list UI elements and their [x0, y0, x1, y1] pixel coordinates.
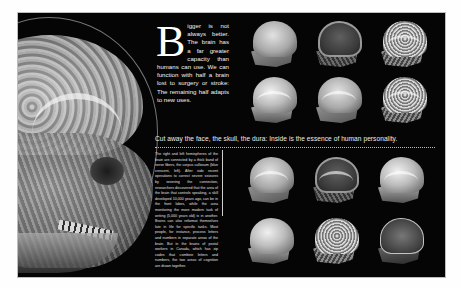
head-render [242, 216, 302, 271]
head-render [310, 75, 370, 125]
head-render [375, 75, 435, 125]
caption: Cut away the face, the skull, the dura: … [155, 135, 440, 143]
head-render [307, 155, 367, 210]
head-render [307, 216, 367, 271]
head-render [310, 19, 370, 69]
head-render [372, 216, 432, 271]
intro-paragraph: B igger is not always better. The brain … [157, 22, 229, 104]
top-render-grid [245, 19, 435, 125]
hero-head-render [18, 13, 160, 277]
head-render [245, 75, 305, 125]
body-text: The right and left hemispheres of the br… [155, 152, 218, 269]
bottom-render-grid [242, 155, 432, 271]
head-render [375, 19, 435, 69]
head-render [242, 155, 302, 210]
column-divider [222, 150, 223, 216]
magazine-spread: B igger is not always better. The brain … [18, 13, 445, 277]
eye-orbit [90, 157, 124, 185]
jaw [18, 233, 118, 273]
dotted-divider [155, 147, 435, 148]
head-render [372, 155, 432, 210]
drop-cap: B [156, 25, 185, 61]
head-render [245, 19, 305, 69]
